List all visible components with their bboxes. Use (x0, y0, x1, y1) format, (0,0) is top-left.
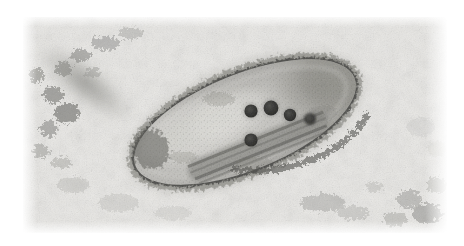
film-grain-overlay (23, 17, 447, 233)
micrograph-canvas (23, 17, 447, 233)
page-root (0, 0, 464, 246)
electron-micrograph-image (23, 17, 447, 233)
